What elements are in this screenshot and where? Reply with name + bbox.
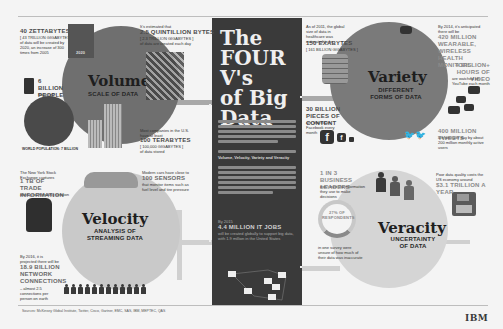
variety-subtitle-2: FORMS OF DATA bbox=[366, 94, 426, 101]
main-title-line2: FOUR V's bbox=[220, 48, 302, 88]
video-camera-icon bbox=[448, 106, 460, 114]
variety-subtitle-1: DIFFERENT bbox=[366, 87, 426, 94]
volume-title: Volume bbox=[88, 72, 150, 90]
veracity-stat3-prefix: Poor data quality costs the US economy a… bbox=[436, 172, 486, 182]
main-title-line3: of Big bbox=[220, 88, 302, 108]
server-rack-small-icon bbox=[88, 120, 102, 148]
velocity-subtitle-1: ANALYSIS OF bbox=[80, 228, 150, 235]
velocity-subtitle-2: STREAMING DATA bbox=[80, 235, 150, 242]
variety-stat4-desc: are watched on YouTube each month bbox=[452, 76, 490, 86]
velocity-stat3-desc: – almost 2.5 connections per person on e… bbox=[20, 286, 60, 301]
variety-stat5-desc: are sent per day by about 200 million mo… bbox=[438, 135, 490, 150]
v-list-text: Volume, Velocity, Variety and Veracity bbox=[218, 155, 298, 160]
person-icon bbox=[71, 284, 76, 294]
connector-pin bbox=[209, 240, 211, 242]
intro-text-line bbox=[218, 125, 296, 128]
person-icon bbox=[134, 284, 139, 294]
facebook-icon-small: f bbox=[337, 133, 346, 142]
business-leader-icon bbox=[376, 172, 386, 192]
body-text-line bbox=[218, 186, 296, 189]
intro-text-line bbox=[218, 135, 296, 138]
variety-stat1-value: 150 EXABYTES bbox=[306, 40, 352, 47]
velocity-stat3-value: 18.9 BILLION NETWORK CONNECTIONS bbox=[20, 264, 60, 285]
center-panel: The FOUR V's of Big Data Volume, Velocit… bbox=[212, 18, 302, 306]
video-camera-icon bbox=[456, 96, 466, 103]
facebook-icon: f bbox=[320, 130, 334, 144]
globe-icon bbox=[24, 96, 74, 146]
ibm-logo: IBM bbox=[465, 313, 488, 323]
body-text-line bbox=[218, 181, 296, 184]
veracity-subtitle-1: UNCERTAINTY bbox=[378, 236, 448, 243]
person-icon bbox=[78, 284, 83, 294]
phone-icon bbox=[24, 78, 34, 94]
connector-pin bbox=[300, 96, 302, 98]
floppy-disk-icon bbox=[452, 192, 476, 216]
variety-title: Variety bbox=[368, 68, 427, 86]
server-rack-icon bbox=[104, 104, 122, 148]
facebook-icon-tiny bbox=[349, 137, 354, 142]
velocity-title: Velocity bbox=[82, 210, 148, 228]
year-label: 2020 bbox=[76, 50, 85, 55]
person-icon bbox=[92, 284, 97, 294]
person-icon bbox=[64, 284, 69, 294]
health-monitor-icon bbox=[400, 26, 412, 34]
business-leader-icon bbox=[390, 176, 400, 196]
velocity-stat1-desc: during each trading session bbox=[20, 192, 70, 197]
jobs-value: 4.4 MILLION IT JOBS bbox=[218, 224, 281, 231]
person-icon bbox=[113, 284, 118, 294]
intro-text-line bbox=[218, 140, 278, 143]
person-icon bbox=[106, 284, 111, 294]
jobs-desc: will be created globally to support big … bbox=[218, 231, 296, 241]
intro-text-line bbox=[218, 150, 296, 153]
business-leader-icon bbox=[404, 180, 414, 200]
volume-stat2-desc: of data are created each day bbox=[140, 41, 200, 46]
body-text-line bbox=[218, 176, 296, 179]
volume-stat1-desc: of data will be created by 2020, an incr… bbox=[20, 40, 68, 55]
source-text: Sources: McKinsey Global Institute, Twit… bbox=[22, 309, 165, 313]
coin-stack-icon bbox=[322, 54, 348, 84]
video-camera-icon bbox=[468, 86, 480, 94]
intro-text-line bbox=[218, 130, 296, 133]
person-icon bbox=[127, 284, 132, 294]
veracity-stat2-value: 27% OF RESPONDENTS bbox=[322, 210, 352, 220]
computer-network-icon bbox=[224, 266, 294, 306]
top-divider bbox=[18, 16, 488, 17]
velocity-stat2-value: 100 SENSORS bbox=[142, 175, 185, 182]
veracity-connector bbox=[300, 266, 340, 271]
body-text-line bbox=[218, 171, 296, 174]
variety-stat3-prefix: By 2014, it's anticipated there will be bbox=[438, 24, 488, 34]
twitter-bird-icon: 🐦🐦 bbox=[404, 130, 434, 144]
volume-stat4-value: 100 TERABYTES bbox=[140, 137, 191, 144]
body-text-line bbox=[218, 166, 296, 169]
bottom-divider bbox=[18, 305, 488, 306]
main-title-line1: The bbox=[220, 28, 302, 48]
main-title: The FOUR V's of Big Data bbox=[220, 28, 302, 128]
video-camera-icon bbox=[464, 104, 474, 111]
person-icon bbox=[141, 284, 146, 294]
body-text-line bbox=[218, 191, 273, 194]
volume-stat1-value: 40 ZETTABYTES bbox=[20, 28, 70, 35]
veracity-stat2-desc: in one survey were unsure of how much of… bbox=[318, 245, 364, 260]
person-icon bbox=[85, 284, 90, 294]
veracity-subtitle-2: OF DATA bbox=[378, 243, 448, 250]
world-population: WORLD POPULATION: 7 BILLION bbox=[22, 147, 78, 152]
data-grid-icon bbox=[146, 52, 184, 100]
volume-stat4-desc: of data stored bbox=[140, 149, 164, 154]
connector-pin bbox=[209, 104, 211, 106]
volume-stat2-value: 2.5 QUINTILLION BYTES bbox=[140, 29, 214, 36]
connector-pin bbox=[300, 266, 302, 268]
intro-text-line bbox=[218, 120, 296, 123]
stock-exchange-drum-icon bbox=[26, 198, 52, 232]
veracity-stat1-desc: don't trust the information they use to … bbox=[320, 184, 366, 199]
person-icon bbox=[99, 284, 104, 294]
volume-subtitle: SCALE OF DATA bbox=[88, 91, 148, 98]
velocity-stat2-desc: that monitor items such as fuel level an… bbox=[142, 182, 190, 192]
car-icon bbox=[84, 172, 138, 188]
book-2020-icon: 2020 bbox=[68, 24, 94, 58]
velocity-stat3-prefix: By 2016, it is projected there will be bbox=[20, 254, 60, 264]
person-icon bbox=[120, 284, 125, 294]
variety-stat1-sub: [ 161 BILLION GIGABYTES ] bbox=[306, 47, 358, 52]
veracity-title: Veracity bbox=[378, 219, 446, 237]
